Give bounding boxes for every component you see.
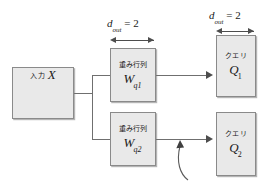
dimension-2-symbol: d bbox=[209, 9, 215, 21]
weight-matrix-1-subscript: q1 bbox=[133, 81, 141, 90]
query-1-label: クエリ bbox=[225, 53, 246, 61]
dimension-1-arrow-right-icon bbox=[148, 37, 154, 43]
dimension-1-arrow-left-icon bbox=[110, 37, 116, 43]
query-box-1: クエリ Q1 bbox=[216, 35, 256, 97]
diagram-canvas: 入力 X 重み行列 Wq1 重み行列 Wq2 クエリ Q1 クエリ Q2 dou… bbox=[0, 0, 275, 182]
dimension-1-symbol: d bbox=[107, 17, 113, 29]
dimension-2-subscript: out bbox=[215, 18, 224, 26]
connector-fork-branch-upper bbox=[92, 75, 110, 76]
weight-matrix-2-symbol: Wq2 bbox=[124, 136, 143, 153]
input-box-label: 入力 bbox=[30, 73, 44, 81]
dimension-2-arrow-left-icon bbox=[216, 28, 222, 34]
query-2-symbol: Q2 bbox=[229, 141, 242, 158]
dimension-2-arrow-right-icon bbox=[248, 28, 254, 34]
weight-matrix-1-label: 重み行列 bbox=[119, 62, 147, 70]
input-box-symbol: X bbox=[48, 68, 56, 81]
connector-wq1-to-q1 bbox=[156, 75, 208, 76]
connector-input-stem bbox=[74, 93, 92, 94]
connector-fork-spine bbox=[92, 75, 93, 139]
query-2-label: クエリ bbox=[225, 131, 246, 139]
query-box-2: クエリ Q2 bbox=[216, 112, 256, 176]
query-2-subscript: 2 bbox=[238, 150, 242, 159]
weight-matrix-2-label: 重み行列 bbox=[119, 126, 147, 134]
dimension-2-value: 2 bbox=[235, 9, 241, 21]
dimension-label-2: dout = 2 bbox=[209, 9, 241, 24]
query-1-subscript: 1 bbox=[238, 72, 242, 81]
query-1-symbol: Q1 bbox=[229, 63, 242, 80]
input-box: 入力 X bbox=[12, 67, 74, 119]
dimension-1-subscript: out bbox=[113, 26, 122, 34]
arrowhead-q1-icon bbox=[206, 71, 213, 79]
connector-fork-branch-lower bbox=[92, 139, 110, 140]
weight-matrix-2-subscript: q2 bbox=[133, 145, 141, 154]
curved-annotation-arrow-icon bbox=[150, 132, 210, 182]
dimension-label-1: dout = 2 bbox=[107, 17, 139, 32]
weight-matrix-1-symbol: Wq1 bbox=[124, 72, 143, 89]
dimension-1-value: 2 bbox=[133, 17, 139, 29]
weight-matrix-box-1: 重み行列 Wq1 bbox=[110, 48, 156, 102]
